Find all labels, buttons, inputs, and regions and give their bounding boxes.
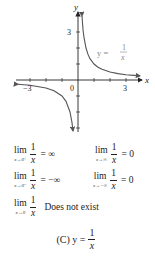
hyperbola-graph: y x −3 0 3 3 y = 1 x: [0, 0, 155, 135]
x-axis-label: x: [144, 75, 149, 85]
limit-x-to-0-plus: limx→0⁺ 1x = ∞: [14, 143, 55, 165]
figure-caption: (C) y = 1x: [0, 228, 155, 251]
function-label-lhs: y =: [97, 48, 108, 58]
caption-prefix: (C) y =: [57, 234, 86, 245]
x-tick-label-0: 0: [70, 84, 74, 93]
limit-x-to-0: limx→0 1x Does not exist: [14, 196, 99, 218]
limit-x-to-0-minus: limx→0⁻ 1x = −∞: [14, 169, 60, 191]
y-axis-label: y: [73, 2, 78, 12]
x-tick-label-neg3: −3: [23, 84, 32, 93]
curve-positive-branch: [82, 16, 140, 76]
function-label-num: 1: [122, 43, 126, 52]
x-tick-label-3: 3: [123, 84, 127, 93]
function-label-den: x: [120, 53, 125, 62]
y-tick-label-3: 3: [67, 28, 71, 37]
limit-x-to-infinity: limx→∞ 1x = 0: [95, 143, 134, 165]
limit-x-to-neg-infinity: limx→−∞ 1x = 0: [93, 169, 133, 191]
